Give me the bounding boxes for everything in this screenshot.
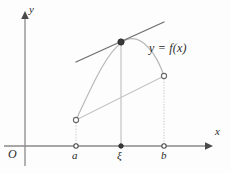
x-axis-label: x bbox=[215, 126, 220, 137]
curve-equation-label: y = f(x) bbox=[149, 42, 187, 54]
tick-label-xi: ξ bbox=[117, 150, 122, 161]
y-axis-label: y bbox=[29, 4, 34, 15]
chord-line bbox=[76, 76, 164, 120]
tick-dot-b bbox=[162, 144, 166, 148]
point-a-marker bbox=[73, 117, 78, 122]
droplines-group bbox=[76, 42, 164, 146]
tick-label-a: a bbox=[72, 150, 78, 161]
x-axis bbox=[4, 142, 213, 150]
tick-dot-a bbox=[74, 144, 78, 148]
x-axis-arrow-icon bbox=[205, 142, 213, 150]
mean-value-theorem-figure: y x O a ξ b y = f(x) bbox=[0, 0, 231, 173]
tick-dot-xi bbox=[119, 144, 123, 148]
y-axis-arrow-icon bbox=[21, 11, 29, 19]
origin-label: O bbox=[8, 148, 17, 160]
tick-label-b: b bbox=[161, 150, 167, 161]
figure-canvas bbox=[0, 0, 231, 173]
point-b-marker bbox=[161, 73, 166, 78]
point-xi-marker bbox=[118, 39, 124, 45]
y-axis bbox=[21, 11, 29, 166]
